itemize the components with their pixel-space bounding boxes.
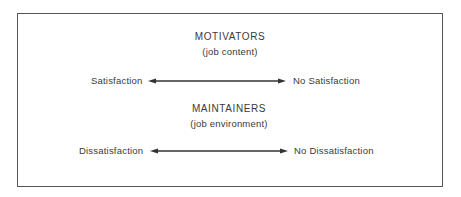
- motivators-subtitle: (job content): [202, 46, 257, 57]
- dissatisfaction-label: Dissatisfaction: [79, 145, 143, 156]
- double-arrow-icon: [150, 147, 288, 155]
- maintainers-subtitle: (job environment): [190, 118, 267, 129]
- double-arrow-icon: [148, 77, 286, 85]
- maintainers-title: MAINTAINERS: [192, 103, 266, 114]
- satisfaction-label: Satisfaction: [91, 75, 143, 86]
- motivators-title: MOTIVATORS: [195, 31, 265, 42]
- no-satisfaction-label: No Satisfaction: [293, 75, 360, 86]
- no-dissatisfaction-label: No Dissatisfaction: [294, 145, 374, 156]
